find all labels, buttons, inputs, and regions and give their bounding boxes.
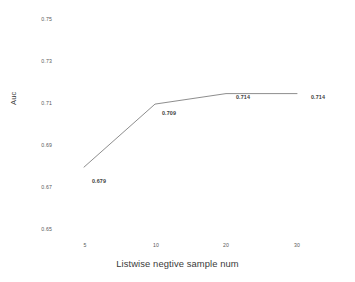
y-tick-label-4: 0.67 [26, 184, 52, 190]
data-point-label-1: 0.709 [162, 110, 176, 116]
y-tick-label-2: 0.71 [26, 100, 52, 106]
y-tick-label-0: 0.75 [26, 16, 52, 22]
y-tick-label-3: 0.69 [26, 142, 52, 148]
chart-container: 0.75 0.73 0.71 0.69 0.67 0.65 5 10 20 30… [0, 0, 355, 282]
data-point-label-0: 0.679 [92, 178, 106, 184]
data-point-label-3: 0.714 [311, 94, 325, 100]
x-tick-label-1: 10 [144, 242, 168, 248]
x-axis-title: Listwise negtive sample num [0, 258, 355, 269]
x-tick-label-2: 20 [214, 242, 238, 248]
chart-plot-area [0, 0, 355, 282]
y-axis-title: Auc [9, 92, 18, 105]
y-tick-label-1: 0.73 [26, 58, 52, 64]
line-series-auc [84, 94, 297, 168]
y-tick-label-5: 0.65 [26, 226, 52, 232]
x-tick-label-3: 30 [285, 242, 309, 248]
x-tick-label-0: 5 [73, 242, 97, 248]
data-point-label-2: 0.714 [236, 94, 250, 100]
